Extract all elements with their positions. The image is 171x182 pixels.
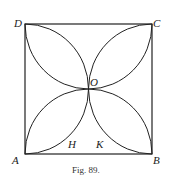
arc-bottom xyxy=(25,89,152,154)
figure-caption: Fig. 89. xyxy=(72,165,100,175)
label-A: A xyxy=(11,154,19,166)
label-O: O xyxy=(90,76,98,88)
label-C: C xyxy=(153,17,161,29)
geometry-figure: D C A B O H K Fig. 89. xyxy=(0,0,171,182)
label-K: K xyxy=(95,138,104,150)
label-D: D xyxy=(13,17,22,29)
label-B: B xyxy=(153,154,160,166)
label-H: H xyxy=(67,138,77,150)
arc-left xyxy=(25,24,89,154)
arc-top xyxy=(25,24,152,89)
arc-right xyxy=(89,24,153,154)
